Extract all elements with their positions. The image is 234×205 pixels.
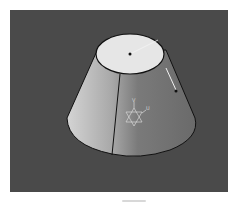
- axis-label-u: U: [146, 105, 150, 111]
- bottom-scroll-indicator[interactable]: [122, 200, 146, 202]
- center-point-icon[interactable]: [129, 53, 132, 56]
- side-handle-point-icon[interactable]: [175, 90, 178, 93]
- scene: V U: [10, 10, 228, 192]
- axis-label-v: V: [132, 97, 136, 103]
- 3d-viewport[interactable]: V U: [10, 10, 228, 192]
